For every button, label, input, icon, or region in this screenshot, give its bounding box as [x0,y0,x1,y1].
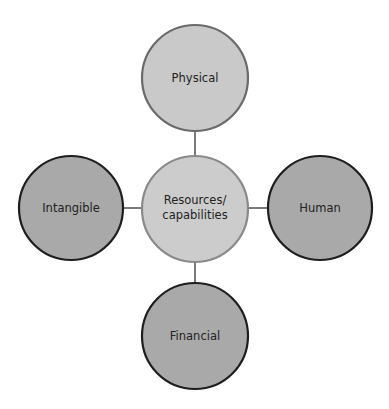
node-label-physical: Physical [172,71,219,85]
resources-capabilities-diagram: Physical Resources/ capabilities Intangi… [0,0,389,409]
node-intangible: Intangible [19,156,123,260]
node-financial: Financial [142,283,248,389]
node-physical: Physical [142,25,248,131]
node-center: Resources/ capabilities [142,156,248,262]
center-label-line-2: capabilities [162,208,227,222]
node-label-financial: Financial [170,329,220,343]
node-label-intangible: Intangible [42,201,100,215]
node-human: Human [268,156,372,260]
node-label-human: Human [299,201,340,215]
center-label-line-1: Resources/ [164,193,227,207]
